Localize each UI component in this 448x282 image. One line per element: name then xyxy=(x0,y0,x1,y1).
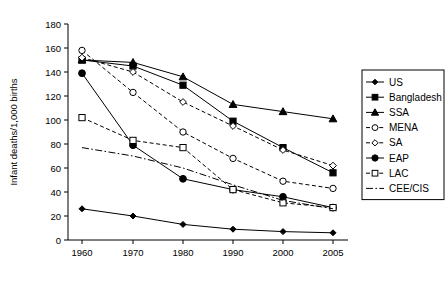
y-axis-title: Infant deaths/1,000 births xyxy=(8,78,19,185)
data-point-open-circle xyxy=(230,155,236,161)
chart-root: Infant deaths/1,000 births 0204060801001… xyxy=(0,0,448,282)
y-tick-label: 100 xyxy=(45,115,61,126)
data-point-open-circle xyxy=(180,129,186,135)
legend-marker-swatch xyxy=(372,170,378,176)
data-point-open-circle xyxy=(280,178,286,184)
legend-label: EAP xyxy=(389,153,409,164)
data-point-filled-circle xyxy=(180,175,187,182)
x-tick-label: 2005 xyxy=(322,247,343,258)
legend-marker-swatch xyxy=(372,155,378,161)
x-tick-label: 2000 xyxy=(272,247,293,258)
data-point-open-square xyxy=(130,137,136,143)
data-point-open-square xyxy=(79,115,85,121)
data-point-filled-square xyxy=(180,82,186,88)
legend-label: SSA xyxy=(389,107,409,118)
y-tick-label: 140 xyxy=(45,67,61,78)
x-tick-label: 1970 xyxy=(122,247,143,258)
legend-marker-swatch xyxy=(372,125,378,131)
y-tick-label: 40 xyxy=(50,187,61,198)
x-tick-label: 1960 xyxy=(71,247,92,258)
legend-label: Bangladesh xyxy=(389,92,442,103)
legend-label: SA xyxy=(389,137,403,148)
data-point-open-circle xyxy=(130,89,136,95)
y-tick-label: 120 xyxy=(45,91,61,102)
y-tick-label: 0 xyxy=(56,235,61,246)
x-tick-label: 1980 xyxy=(172,247,193,258)
legend-border xyxy=(362,70,444,200)
y-tick-label: 20 xyxy=(50,211,61,222)
y-tick-label: 160 xyxy=(45,43,61,54)
y-tick-label: 80 xyxy=(50,139,61,150)
data-point-open-circle xyxy=(330,185,336,191)
infant-mortality-line-chart: Infant deaths/1,000 births 0204060801001… xyxy=(0,0,448,282)
legend-marker-swatch xyxy=(372,94,378,100)
legend-label: MENA xyxy=(389,122,418,133)
y-tick-label: 180 xyxy=(45,19,61,30)
data-point-open-square xyxy=(330,205,336,211)
legend-label: CEE/CIS xyxy=(389,183,429,194)
data-point-filled-circle xyxy=(79,70,86,77)
data-point-open-circle xyxy=(79,47,85,53)
y-tick-label: 60 xyxy=(50,163,61,174)
legend-label: US xyxy=(389,77,403,88)
data-point-open-square xyxy=(180,145,186,151)
data-point-open-square xyxy=(230,187,236,193)
legend-label: LAC xyxy=(389,168,408,179)
x-tick-label: 1990 xyxy=(222,247,243,258)
data-point-filled-square xyxy=(330,170,336,176)
chart-legend: USBangladeshSSAMENASAEAPLACCEE/CIS xyxy=(362,70,444,200)
